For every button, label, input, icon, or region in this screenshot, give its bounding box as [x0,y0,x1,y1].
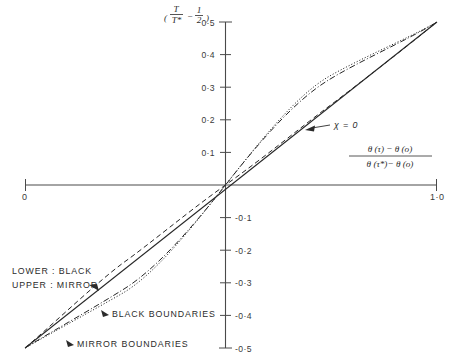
x-tick-label-1: 1·0 [430,192,445,202]
y-tick-label-n05: -0·5 [235,344,252,354]
lower-black-label: LOWER : BLACK [12,266,92,276]
x-axis-label: θ (τ) − θ (o) θ (τ*)− θ (o) [349,144,432,169]
y-tick-label-n03: -0·3 [235,278,252,288]
x-axis-label-denominator: θ (τ*)− θ (o) [367,159,414,169]
mirror-boundaries-label: MIRROR BOUNDARIES [77,339,189,349]
y-tick-label-p03: 0·3 [201,83,215,93]
y-axis-label-num1: T [173,4,179,14]
upper-mirror-label: UPPER : MIRROR [12,280,98,290]
chart-svg: 0 1·0 0·5 0·4 0·3 0·2 0·1 -0·1 -0·2 -0·3… [0,0,457,363]
figure-container: 0 1·0 0·5 0·4 0·3 0·2 0·1 -0·1 -0·2 -0·3… [0,0,457,363]
y-axis-label-den2: 2 [197,15,202,25]
x-tick-label-0: 0 [22,192,28,202]
y-axis-label-den1: T* [172,15,182,25]
chi-zero-label: χ = 0 [333,120,358,130]
x-axis-label-numerator: θ (τ) − θ (o) [368,144,413,154]
mirror-boundaries-arrowhead [66,340,74,347]
y-tick-label-p04: 0·4 [201,50,215,60]
y-axis-label-open-paren: ( [164,13,168,23]
black-boundaries-arrowhead [101,310,109,317]
y-tick-label-p01: 0·1 [201,148,215,158]
annotation-lower-upper: LOWER : BLACK UPPER : MIRROR [12,266,99,291]
black-boundaries-label: BLACK BOUNDARIES [112,309,216,319]
annotation-black-boundaries: BLACK BOUNDARIES [101,309,216,319]
y-tick-label-n04: -0·4 [235,311,252,321]
annotation-mirror-boundaries: MIRROR BOUNDARIES [66,339,189,349]
chi-zero-arrowhead [305,126,315,132]
y-tick-label-n01: -0·1 [235,213,252,223]
y-axis-label-num2: 1 [197,5,202,15]
y-tick-label-n02: -0·2 [235,246,252,256]
y-tick-label-p02: 0·2 [201,115,215,125]
y-axis-label-minus: − [187,11,193,21]
y-axis-label-close-paren: ) [205,13,209,23]
annotation-chi-zero: χ = 0 [305,120,358,132]
